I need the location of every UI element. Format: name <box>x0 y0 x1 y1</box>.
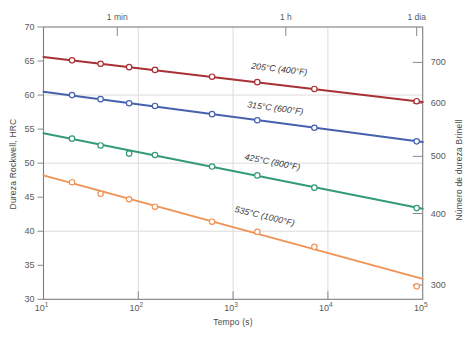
data-point-535-c-1000-f <box>209 219 214 224</box>
data-point-425-c-800-f <box>152 152 157 157</box>
top-tick-label: 1 dia <box>407 12 426 22</box>
series-label-535-c-1000-f: 535°C (1000°F) <box>234 204 296 228</box>
y-left-tick-label: 55 <box>24 124 34 134</box>
data-point-535-c-1000-f <box>98 191 103 196</box>
y-right-tick-label: 700 <box>431 57 446 67</box>
data-point-205-c-400-f <box>69 58 74 63</box>
y-right-tick-label: 500 <box>431 151 446 161</box>
y-left-tick-label: 35 <box>24 260 34 270</box>
data-point-205-c-400-f <box>152 67 157 72</box>
x-axis-title: Tempo (s) <box>213 317 253 327</box>
series-label-315-c-600-f: 315°C (600°F) <box>247 99 304 116</box>
data-point-205-c-400-f <box>255 79 260 84</box>
x-tick-label: 104 <box>319 301 333 313</box>
data-point-315-c-600-f <box>255 118 260 123</box>
data-point-425-c-800-f <box>414 205 419 210</box>
data-point-315-c-600-f <box>152 103 157 108</box>
data-point-315-c-600-f <box>414 139 419 144</box>
y-right-axis-title: Número de dureza Brinell <box>454 119 464 220</box>
y-left-tick-label: 30 <box>24 294 34 304</box>
data-point-535-c-1000-f <box>126 197 131 202</box>
y-left-tick-label: 65 <box>24 56 34 66</box>
series-label-425-c-800-f: 425°C (800°F) <box>244 152 301 173</box>
top-tick-label: 1 h <box>280 12 292 22</box>
y-left-tick-label: 70 <box>24 22 34 32</box>
data-point-425-c-800-f <box>98 143 103 148</box>
data-point-425-c-800-f <box>209 164 214 169</box>
data-point-535-c-1000-f <box>255 229 260 234</box>
data-point-315-c-600-f <box>126 101 131 106</box>
y-right-tick-label: 400 <box>431 209 446 219</box>
data-point-315-c-600-f <box>312 125 317 130</box>
y-left-axis-title: Dureza Rockwell, HRC <box>8 119 18 210</box>
plot-area: 1011021031041053035404550556065707006005… <box>0 0 474 341</box>
data-point-205-c-400-f <box>98 61 103 66</box>
y-right-tick-label: 300 <box>431 280 446 290</box>
y-left-tick-label: 40 <box>24 226 34 236</box>
data-point-205-c-400-f <box>414 99 419 104</box>
data-point-535-c-1000-f <box>414 284 419 289</box>
data-point-205-c-400-f <box>209 74 214 79</box>
data-point-315-c-600-f <box>69 92 74 97</box>
data-point-535-c-1000-f <box>69 180 74 185</box>
data-point-425-c-800-f <box>126 151 131 156</box>
data-point-315-c-600-f <box>209 111 214 116</box>
top-tick-label: 1 min <box>107 12 128 22</box>
y-left-tick-label: 60 <box>24 90 34 100</box>
x-tick-label: 101 <box>35 301 49 313</box>
data-point-425-c-800-f <box>255 173 260 178</box>
x-tick-label: 105 <box>414 301 428 313</box>
data-point-425-c-800-f <box>312 185 317 190</box>
data-point-535-c-1000-f <box>152 204 157 209</box>
data-point-315-c-600-f <box>98 96 103 101</box>
series-label-205-c-400-f: 205°C (400°F) <box>250 61 308 78</box>
y-left-tick-label: 50 <box>24 158 34 168</box>
x-tick-label: 103 <box>224 301 238 313</box>
x-tick-label: 102 <box>129 301 143 313</box>
y-left-tick-label: 45 <box>24 192 34 202</box>
data-point-205-c-400-f <box>126 64 131 69</box>
y-right-tick-label: 600 <box>431 98 446 108</box>
data-point-535-c-1000-f <box>312 244 317 249</box>
data-point-205-c-400-f <box>312 86 317 91</box>
tempering-hardness-figure: 1011021031041053035404550556065707006005… <box>0 0 474 341</box>
data-point-425-c-800-f <box>69 136 74 141</box>
